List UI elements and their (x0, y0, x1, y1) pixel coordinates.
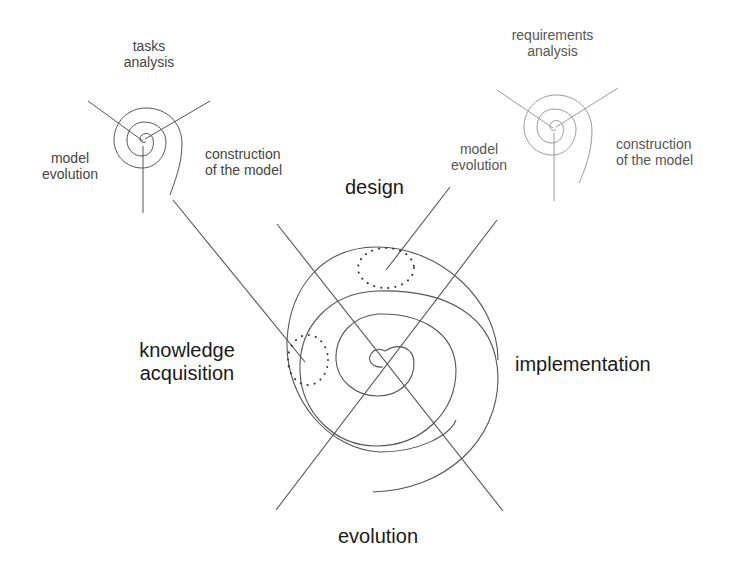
label-requirements-analysis: requirements analysis (500, 27, 605, 59)
label-line: knowledge (126, 339, 248, 362)
label-line: evolution (443, 157, 515, 173)
label-line: analysis (500, 43, 605, 59)
dotted-loop-knowledge (288, 335, 328, 385)
label-line: evolution (34, 166, 106, 182)
label-design: design (345, 176, 404, 199)
mini-spiral-right (497, 88, 618, 201)
label-model-evolution-right: model evolution (443, 141, 515, 173)
label-line: acquisition (126, 362, 248, 385)
label-line: construction (616, 136, 693, 152)
label-line: analysis (119, 54, 179, 70)
label-evolution: evolution (338, 525, 418, 548)
label-line: of the model (616, 152, 693, 168)
label-knowledge-acquisition: knowledge acquisition (126, 339, 248, 385)
dotted-loops (288, 248, 414, 385)
mini-spiral-left (88, 101, 210, 213)
label-model-evolution-left: model evolution (34, 150, 106, 182)
label-construction-left: construction of the model (205, 146, 282, 178)
label-line: tasks (119, 38, 179, 54)
connector-left (173, 200, 305, 362)
label-tasks-analysis: tasks analysis (119, 38, 179, 70)
label-line: construction (205, 146, 282, 162)
main-axis-nw-se (277, 224, 503, 511)
label-construction-right: construction of the model (616, 136, 693, 168)
label-line: model (34, 150, 106, 166)
main-axis-ne-sw (276, 220, 497, 510)
connector-right (386, 187, 450, 270)
label-line: model (443, 141, 515, 157)
dotted-loop-design (358, 248, 414, 288)
spiral-diagram (0, 0, 736, 571)
label-line: requirements (500, 27, 605, 43)
label-line: of the model (205, 162, 282, 178)
label-implementation: implementation (515, 353, 651, 376)
